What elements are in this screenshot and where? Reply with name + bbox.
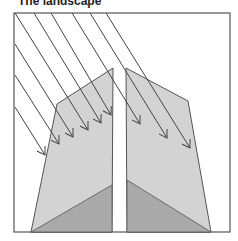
sun-ray-arrow-2 — [15, 75, 59, 144]
sun-ray-arrow-4 — [15, 13, 88, 130]
left-landscape-block — [31, 68, 113, 232]
sun-ray-arrow-3 — [15, 44, 73, 137]
landscape-diagram — [0, 0, 238, 241]
